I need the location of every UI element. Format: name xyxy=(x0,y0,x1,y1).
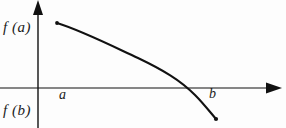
function-graph-figure: f (a) f (b) a b xyxy=(0,0,286,128)
label-f-of-b: f (b) xyxy=(3,103,31,118)
label-point-b: b xyxy=(209,87,216,101)
label-f-of-a: f (a) xyxy=(3,20,31,35)
curve-start-point-marker xyxy=(55,21,59,25)
function-curve xyxy=(57,23,216,119)
x-axis-arrowhead-icon xyxy=(266,83,282,94)
label-point-a: a xyxy=(59,88,66,102)
graph-canvas xyxy=(0,0,286,128)
y-axis-arrowhead-icon xyxy=(33,0,43,15)
curve-end-point-marker xyxy=(214,117,218,121)
